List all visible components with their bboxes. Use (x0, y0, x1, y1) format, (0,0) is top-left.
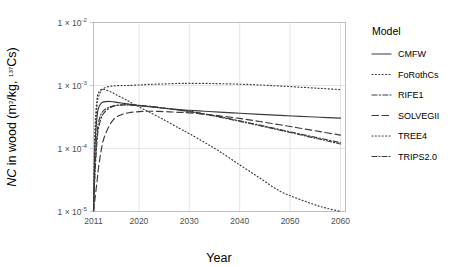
legend-label-tree4[interactable]: TREE4 (398, 131, 427, 141)
y-tick-label: 1 × 10-3 (58, 79, 88, 91)
series-lines (94, 83, 341, 211)
y-tick-label: 1 × 10-4 (58, 142, 88, 154)
x-axis-tick-labels: 201120202030204020502060 (84, 216, 350, 226)
y-tick-label: 1 × 10-5 (58, 205, 88, 217)
chart-legend: ModelCMFWFoRothCsRIFE1SOLVEGIITREE4TRIPS… (372, 25, 439, 162)
legend-label-forothcs[interactable]: FoRothCs (398, 70, 439, 80)
legend-title: Model (372, 25, 401, 37)
series-line-cmfw (94, 101, 341, 211)
chart-canvas: 201120202030204020502060 1 × 10-21 × 10-… (0, 0, 457, 267)
x-tick-label: 2050 (281, 216, 300, 226)
x-tick-label: 2020 (129, 216, 148, 226)
legend-label-trips2-0[interactable]: TRIPS2.0 (398, 152, 437, 162)
y-axis-tick-labels: 1 × 10-21 × 10-31 × 10-41 × 10-5 (58, 16, 94, 217)
chart-figure: 201120202030204020502060 1 × 10-21 × 10-… (0, 0, 457, 267)
x-tick-label: 2040 (230, 216, 249, 226)
series-line-tree4 (94, 89, 341, 211)
legend-label-solvegii[interactable]: SOLVEGII (398, 111, 439, 121)
legend-label-cmfw[interactable]: CMFW (398, 49, 426, 59)
legend-label-rife1[interactable]: RIFE1 (398, 90, 424, 100)
y-tick-label: 1 × 10-2 (58, 16, 88, 28)
x-axis-title: Year (206, 251, 231, 265)
y-axis-title: NC in wood (m2/kg, 137Cs) (5, 47, 19, 187)
x-tick-label: 2011 (84, 216, 103, 226)
x-tick-label: 2030 (180, 216, 199, 226)
series-line-rife1 (94, 105, 341, 212)
series-line-trips2-0 (94, 105, 341, 212)
svg-text:NC in wood (m2/kg, 137Cs): NC in wood (m2/kg, 137Cs) (5, 47, 19, 187)
x-tick-label: 2060 (331, 216, 350, 226)
series-line-solvegii (94, 111, 341, 211)
